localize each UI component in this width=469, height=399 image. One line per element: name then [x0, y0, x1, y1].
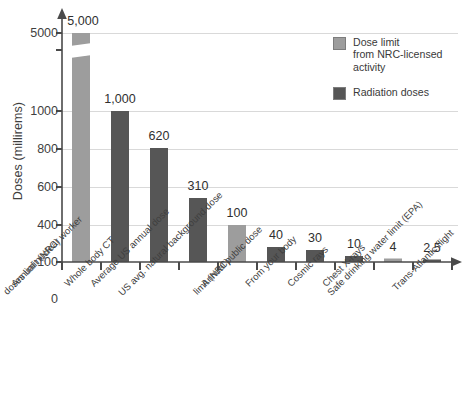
x-label-annual-public-dose-limit-line2: limit (NRC): [191, 256, 232, 297]
x-label-annual-nuclear-worker-limit-line2: doses limit (NRC): [1, 236, 62, 297]
legend-label-radiation-doses: Radiation doses: [353, 86, 429, 98]
legend-item-dose-limit: Dose limit from NRC-licensed activity: [333, 36, 465, 73]
chart-legend: Dose limit from NRC-licensed activity Ra…: [333, 36, 465, 113]
x-label-trans-atlantic-flight: Trans-Atlantic flight: [390, 227, 456, 293]
legend-swatch-radiation-doses-icon: [333, 87, 346, 100]
x-label-safe-drinking-water-limit: Safe drinking water limit (EPA): [325, 199, 425, 299]
legend-label-radiation-doses-line1: Radiation doses: [353, 86, 429, 98]
legend-label-dose-limit-line2: from NRC-licensed: [353, 48, 442, 60]
legend-label-dose-limit-line3: activity: [353, 61, 442, 73]
legend-swatch-dose-limit-icon: [333, 37, 346, 50]
legend-item-radiation-doses: Radiation doses: [333, 86, 465, 100]
legend-label-dose-limit: Dose limit from NRC-licensed activity: [353, 36, 442, 73]
legend-label-dose-limit-line1: Dose limit: [353, 36, 442, 48]
radiation-dose-bar-chart: Doses (millirems) 5000 1000 800 600 400 …: [0, 0, 469, 399]
